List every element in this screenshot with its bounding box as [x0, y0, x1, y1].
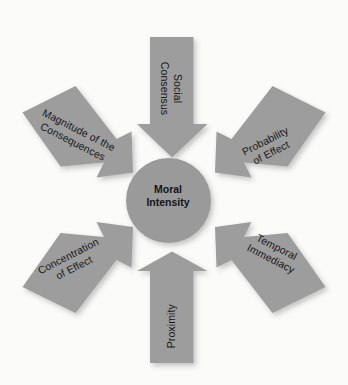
arrow-social-consensus: [137, 37, 208, 158]
arrow-probability-of-effect: [215, 86, 326, 178]
moral-intensity-diagram: Social Consensus Probability of Effect T…: [0, 0, 348, 385]
diagram-canvas: [0, 0, 348, 385]
arrow-temporal-immediacy: [215, 222, 326, 313]
hub-circle: [126, 158, 211, 243]
arrow-concentration-of-effect: [23, 222, 134, 313]
arrow-proximity: [137, 252, 208, 364]
arrow-magnitude-of-the-consequences: [23, 86, 134, 178]
